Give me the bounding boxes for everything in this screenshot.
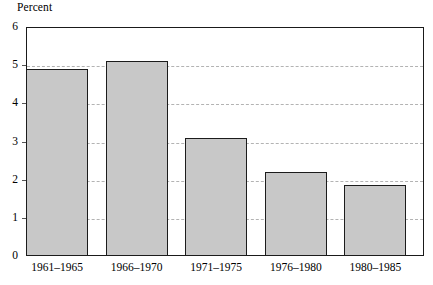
- y-tick-label: 0: [0, 250, 18, 262]
- x-tick-label: 1966–1970: [106, 261, 168, 274]
- bar: [265, 172, 327, 256]
- x-tick-label: 1961–1965: [26, 261, 88, 274]
- bar-chart: Percent 0123456 1961–19651966–19701971–1…: [0, 0, 433, 285]
- x-tick-label: 1971–1975: [185, 261, 247, 274]
- y-tick-label: 4: [0, 97, 18, 109]
- y-tick-label: 1: [0, 212, 18, 224]
- y-axis-title: Percent: [17, 1, 52, 14]
- bar: [185, 138, 247, 256]
- y-axis: 0123456: [0, 27, 22, 256]
- bar: [26, 69, 88, 256]
- bar: [344, 185, 406, 256]
- x-axis-labels: 1961–19651966–19701971–19751976–19801980…: [26, 261, 424, 281]
- y-tick-label: 5: [0, 59, 18, 71]
- bars-group: [26, 27, 424, 256]
- x-tick-label: 1980–1985: [344, 261, 406, 274]
- y-tick-label: 3: [0, 136, 18, 148]
- y-tick-label: 2: [0, 174, 18, 186]
- x-tick-label: 1976–1980: [265, 261, 327, 274]
- y-tick-label: 6: [0, 21, 18, 33]
- bar: [106, 61, 168, 256]
